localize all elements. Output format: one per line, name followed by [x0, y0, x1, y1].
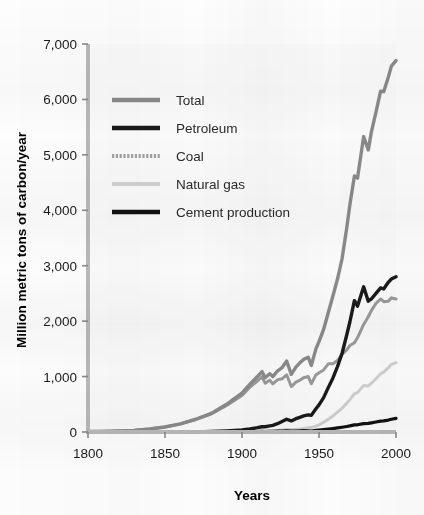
x-axis-tick-label: 1800	[73, 446, 103, 461]
legend-label: Petroleum	[176, 121, 238, 136]
y-axis-title: Million metric tons of carbon/year	[14, 131, 29, 348]
x-axis-tick-label: 1850	[150, 446, 180, 461]
legend-label: Coal	[176, 149, 204, 164]
x-axis-tick-label: 2000	[381, 446, 411, 461]
x-axis-tick-label: 1950	[304, 446, 334, 461]
y-axis-tick-label: 6,000	[43, 92, 77, 107]
legend-label: Cement production	[176, 205, 290, 220]
legend-label: Natural gas	[176, 177, 245, 192]
y-axis-tick-label: 7,000	[43, 37, 77, 52]
legend-label: Total	[176, 93, 205, 108]
y-axis-tick-label: 1,000	[43, 370, 77, 385]
x-axis-title: Years	[234, 488, 270, 503]
x-axis-tick-label: 1900	[227, 446, 257, 461]
emissions-line-chart: 01,0002,0003,0004,0005,0006,0007,0001800…	[0, 0, 424, 515]
figure-container: 01,0002,0003,0004,0005,0006,0007,0001800…	[0, 0, 424, 515]
y-axis-tick-label: 3,000	[43, 259, 77, 274]
y-axis-tick-label: 2,000	[43, 314, 77, 329]
y-axis-tick-label: 4,000	[43, 203, 77, 218]
y-axis-tick-label: 0	[69, 425, 77, 440]
y-axis-tick-label: 5,000	[43, 148, 77, 163]
